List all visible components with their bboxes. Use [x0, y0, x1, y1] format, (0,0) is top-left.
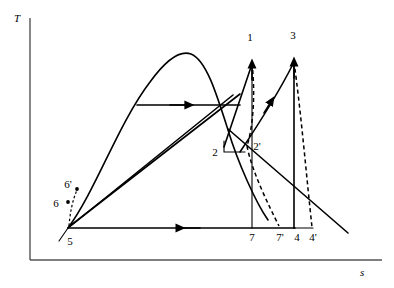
state-point-labels: 1 2 2' 3 4 4' 5 6 6' 7 7' — [53, 29, 317, 247]
arrow-reheat-up — [264, 100, 272, 113]
label-state-5: 5 — [67, 235, 73, 247]
pump-line-actual — [70, 94, 240, 226]
descending-line-group — [228, 129, 348, 233]
label-state-7-prime: 7' — [276, 231, 284, 243]
pump-lines-group — [59, 94, 240, 241]
x-axis-label: s — [360, 266, 364, 278]
expansion-3-4p-group — [294, 62, 313, 228]
label-state-7: 7 — [249, 231, 255, 243]
saturation-dome-curve — [68, 53, 268, 228]
descending-line — [228, 129, 348, 233]
label-state-2: 2 — [212, 146, 218, 158]
label-state-2-prime: 2' — [253, 140, 261, 152]
label-state-3: 3 — [290, 29, 296, 41]
label-state-4: 4 — [294, 231, 300, 243]
label-state-6: 6 — [53, 197, 59, 209]
state-point-6-dot — [66, 200, 70, 204]
label-state-4-prime: 4' — [309, 231, 317, 243]
ts-diagram-figure: T s — [0, 0, 394, 288]
lp-turbine-actual-dashed — [294, 62, 312, 227]
label-state-6-prime: 6' — [64, 178, 72, 190]
state-point-6p-dot — [75, 187, 79, 191]
label-state-1: 1 — [247, 31, 253, 43]
y-axis-label: T — [14, 12, 21, 24]
saturation-dome-group — [68, 53, 268, 228]
ts-diagram-canvas: T s — [0, 0, 394, 288]
